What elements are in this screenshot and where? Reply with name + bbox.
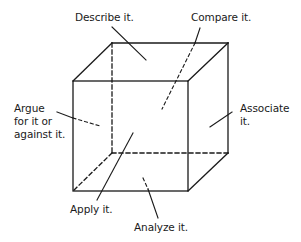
apply-label: Apply it.: [70, 203, 112, 216]
argue-label-line3: against it.: [14, 128, 65, 141]
pointer-lines: [57, 27, 232, 218]
associate-label-line1: Associate: [240, 102, 289, 115]
associate-pointer: [210, 112, 232, 127]
compare-pointer-solid: [195, 28, 200, 43]
analyze-pointer-solid: [148, 189, 158, 218]
argue-label-line2: for it or: [14, 115, 52, 128]
describe-label: Describe it.: [75, 11, 134, 24]
analyze-pointer-dashed: [143, 178, 148, 189]
compare-pointer-dashed: [162, 43, 195, 109]
associate-label-line2: it.: [240, 115, 250, 128]
apply-pointer: [97, 133, 133, 200]
compare-label: Compare it.: [191, 11, 251, 24]
argue-pointer-solid: [57, 112, 73, 118]
argue-pointer-dashed: [73, 118, 100, 126]
analyze-label: Analyze it.: [134, 221, 188, 234]
argue-label-line1: Argue: [14, 102, 45, 115]
